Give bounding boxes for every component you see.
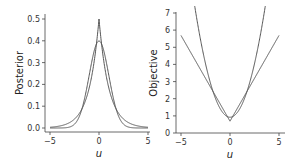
left-ytick-label: 0.3 xyxy=(27,59,40,68)
laplace-objective-line xyxy=(181,35,279,121)
left-ytick-label: 0.1 xyxy=(27,102,40,111)
left-xtick-label: −5 xyxy=(44,137,56,146)
left-ytick-label: 0.2 xyxy=(27,80,40,89)
right-ytick-label: 6 xyxy=(165,26,170,35)
right-x-ticks: −5 0 5 xyxy=(175,133,281,147)
right-ytick-label: 0 xyxy=(165,129,170,138)
left-ytick-label: 0.4 xyxy=(27,37,40,46)
left-y-label: Posterior xyxy=(14,50,25,95)
left-x-ticks: −5 0 5 xyxy=(44,132,150,146)
right-y-label: Objective xyxy=(148,49,159,96)
right-ytick-label: 4 xyxy=(165,60,170,69)
left-ytick-label: 0.0 xyxy=(27,124,40,133)
posterior-plot: 0.0 0.1 0.2 0.3 0.4 0.5 −5 0 5 Posterior… xyxy=(14,14,151,159)
right-y-ticks: 0 1 2 3 4 5 6 7 xyxy=(165,9,176,138)
gaussian-posterior-line xyxy=(50,41,148,128)
right-xtick-label: 5 xyxy=(276,138,281,147)
left-x-label: u xyxy=(96,148,102,159)
right-ytick-label: 2 xyxy=(165,95,170,104)
right-ytick-label: 3 xyxy=(165,78,170,87)
gaussian-objective-line xyxy=(195,6,266,117)
right-x-label: u xyxy=(227,149,233,160)
right-xtick-label: 0 xyxy=(227,138,232,147)
left-ytick-label: 0.5 xyxy=(27,15,40,24)
right-ytick-label: 5 xyxy=(165,43,170,52)
right-ytick-label: 1 xyxy=(165,112,170,121)
left-y-ticks: 0.0 0.1 0.2 0.3 0.4 0.5 xyxy=(27,15,45,133)
laplace-posterior-line xyxy=(50,19,148,127)
left-xtick-label: 0 xyxy=(96,137,101,146)
objective-plot: 0 1 2 3 4 5 6 7 −5 0 5 Objective u xyxy=(148,6,285,160)
right-xtick-label: −5 xyxy=(175,138,187,147)
figure: 0.0 0.1 0.2 0.3 0.4 0.5 −5 0 5 Posterior… xyxy=(0,0,298,164)
right-ytick-label: 7 xyxy=(165,9,170,18)
left-xtick-label: 5 xyxy=(145,137,150,146)
